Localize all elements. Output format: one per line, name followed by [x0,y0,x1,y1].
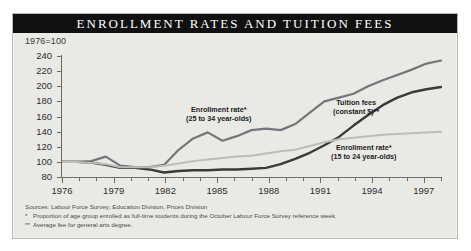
footnote-two-marker: ** [25,221,33,229]
x-axis-tick [252,178,253,181]
x-axis-tick [114,178,115,183]
x-axis-label: 1991 [300,185,340,196]
y-axis-label: 120 [22,141,52,152]
x-axis-tick [338,178,339,181]
x-axis-label: 1997 [404,185,444,196]
y-axis-label: 80 [22,171,52,182]
page-title: ENROLLMENT RATES AND TUITION FEES [13,14,457,33]
x-axis-tick [286,178,287,181]
annotation-enrollment-25-34: Enrollment rate* (25 to 34 year-olds) [186,105,252,123]
y-axis-tick [57,162,61,163]
y-axis-tick [57,101,61,102]
annotation-line-1: Enrollment rate* [191,105,247,114]
x-axis-tick [389,178,390,181]
y-axis-label: 240 [22,50,52,61]
annotation-enrollment-15-24: Enrollment rate* (15 to 24 year-olds) [331,143,397,161]
x-axis-tick [424,178,425,183]
y-axis-tick [57,56,61,57]
y-axis-tick [57,117,61,118]
y-axis-label: 140 [22,126,52,137]
y-axis-label: 160 [22,111,52,122]
x-axis-tick [200,178,201,181]
x-axis-tick [131,178,132,181]
annotation-line-2: (15 to 24 year-olds) [331,152,397,161]
x-axis-label: 1985 [197,185,237,196]
x-axis-label: 1982 [145,185,185,196]
x-axis-tick [183,178,184,181]
x-axis-tick [148,178,149,181]
x-axis-label: 1988 [249,185,289,196]
title-banner: ENROLLMENT RATES AND TUITION FEES [13,14,457,33]
x-axis-tick [355,178,356,181]
x-axis-tick [441,178,442,181]
annotation-line-2: (constant $)** [333,107,379,116]
x-axis-tick [234,178,235,181]
chart-figure: ENROLLMENT RATES AND TUITION FEES 1976=1… [0,0,471,251]
y-axis-tick [57,147,61,148]
annotation-line-1: Tuition fees [336,98,376,107]
x-axis-tick [217,178,218,183]
x-axis-tick [165,178,166,183]
index-note: 1976=100 [25,36,66,46]
x-axis-tick [269,178,270,183]
annotation-line-2: (25 to 34 year-olds) [186,114,252,123]
y-axis-tick [57,132,61,133]
footnote-sources: Sources: Labour Force Survey; Education … [25,203,207,211]
x-axis-tick [407,178,408,181]
x-axis-tick [96,178,97,181]
y-axis-tick [57,71,61,72]
y-axis-label: 220 [22,65,52,76]
annotation-line-1: Enrollment rate* [336,143,392,152]
x-axis-tick [62,178,63,183]
x-axis-tick [303,178,304,181]
annotation-tuition-fees: Tuition fees (constant $)** [333,98,379,116]
x-axis-tick [372,178,373,183]
footnote-one: *Proportion of age group enrolled as ful… [25,212,337,220]
x-axis-label: 1979 [94,185,134,196]
footnote-two-text: Average fee for general arts degree. [33,221,132,228]
x-axis-label: 1976 [42,185,82,196]
x-axis-tick [79,178,80,181]
x-axis-label: 1994 [352,185,392,196]
y-axis-tick [57,177,61,178]
footnote-two: **Average fee for general arts degree. [25,221,132,229]
y-axis-label: 200 [22,80,52,91]
footnote-one-text: Proportion of age group enrolled as full… [33,212,337,219]
y-axis-label: 100 [22,156,52,167]
x-axis-tick [320,178,321,183]
y-axis-tick [57,86,61,87]
footnote-one-marker: * [25,212,33,220]
y-axis-label: 180 [22,95,52,106]
